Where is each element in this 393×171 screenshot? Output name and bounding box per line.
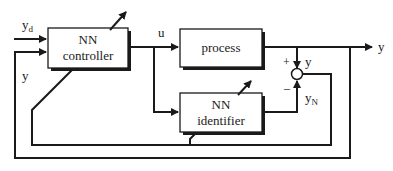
sum-minus-sign: – (283, 81, 291, 95)
identifier-label-line1: NN (212, 97, 231, 112)
summing-junction (292, 69, 303, 80)
process-label: process (202, 40, 241, 55)
feedback-y-label: y (22, 68, 29, 83)
nn-controller-block: NN controller (48, 28, 131, 71)
u-branch-to-identifier (154, 47, 178, 112)
block-diagram: yd y NN controller u process y + y – yN … (0, 0, 393, 171)
nn-identifier-block: NN identifier (180, 93, 265, 135)
sum-input-y-label: y (305, 54, 312, 69)
controller-adaptation-arrow (110, 12, 126, 30)
control-u-label: u (158, 25, 165, 40)
identifier-output-line (262, 81, 297, 112)
sum-plus-sign: + (283, 55, 290, 69)
reference-label: yd (22, 17, 34, 34)
identifier-label-line2: identifier (197, 113, 245, 128)
identifier-output-label: yN (305, 90, 319, 107)
controller-label-line1: NN (79, 32, 98, 47)
controller-label-line2: controller (63, 48, 114, 63)
process-block: process (180, 29, 265, 70)
output-y-label: y (378, 39, 385, 54)
